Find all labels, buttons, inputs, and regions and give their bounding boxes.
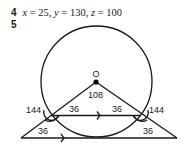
center-label: O — [93, 69, 100, 79]
center-point — [93, 79, 98, 84]
angle-label-base-right: 36 — [143, 126, 153, 136]
angle-label-ext-right: 144 — [149, 105, 164, 115]
triangle-side-right — [96, 82, 177, 138]
angle-label-ext-left: 144 — [26, 105, 41, 115]
angle-label-chord-left: 36 — [69, 104, 79, 114]
angle-label-base-left: 36 — [38, 126, 48, 136]
angle-label-chord-right: 36 — [112, 104, 122, 114]
angle-label-center: 108 — [88, 90, 103, 100]
geometry-diagram: O 108 36 36 144 144 36 36 — [0, 0, 181, 152]
